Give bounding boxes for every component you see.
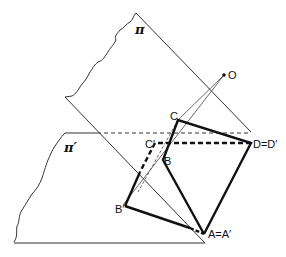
plane-pi-wavy-edge [65,13,136,97]
ray-o-c-prime-dashed [138,120,178,192]
point-o [222,73,226,77]
plane-pi-prime-wavy-edge [14,133,65,242]
plane-pi-left-edge [65,97,205,243]
perspective-diagram: π π′ O C C′ B B′ D=D′ A=A′ [0,0,286,257]
label-o: O [228,69,237,81]
edge-b-prime-upper [125,172,140,206]
label-a: A=A′ [208,228,231,240]
label-b: B [164,155,171,167]
label-c-prime: C′ [145,138,155,150]
ray-o-b-prime [123,75,224,205]
label-pi-prime: π′ [63,140,78,155]
label-d: D=D′ [253,138,277,150]
label-b-prime: B′ [115,203,124,215]
label-pi: π [134,22,145,37]
label-c: C [170,110,178,122]
